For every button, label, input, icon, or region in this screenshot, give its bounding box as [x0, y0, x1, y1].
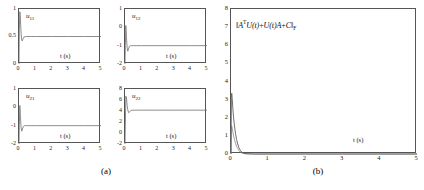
xtick-u11-1: 1 [28, 65, 40, 71]
xaxis-title-resid: t (s) [353, 136, 363, 143]
xaxis-title-u22: t (s) [166, 132, 176, 139]
xtick-u11-2: 2 [45, 65, 57, 71]
ytick-u22-3: 4 [108, 107, 122, 113]
xtick-u12-1: 1 [134, 65, 146, 71]
series-label-u21: u21 [26, 92, 35, 101]
xtick-u21-1: 1 [28, 145, 40, 151]
xtick-resid-5: 5 [410, 155, 422, 162]
xtick-resid-4: 4 [373, 155, 385, 162]
series-label-u12: u12 [132, 12, 141, 21]
subplot-u11: 0 0.5 1 0 1 2 3 4 5 u11 t (s) [0, 0, 106, 80]
xtick-u11-5: 5 [94, 65, 106, 71]
caption-a: (a) [82, 166, 130, 176]
series-label-u22-sub: 22 [136, 96, 141, 101]
xtick-u22-0: 0 [118, 145, 130, 151]
xtick-resid-1: 1 [261, 155, 273, 162]
ytick-u12-2: 0 [108, 23, 122, 29]
series-label-u21-sub: 21 [30, 96, 35, 101]
xtick-u12-4: 4 [184, 65, 196, 71]
xtick-resid-3: 3 [336, 155, 348, 162]
series-label-u22: u22 [132, 92, 141, 101]
norm-frobenius-sub: F [293, 25, 296, 31]
xtick-u22-2: 2 [151, 145, 163, 151]
ytick-resid-5: 5 [214, 59, 228, 66]
subplot-u12: -2 -1 0 1 0 1 2 3 4 5 u12 t (s) [106, 0, 212, 80]
series-label-u11: u11 [26, 12, 34, 21]
series-label-u12-sub: 12 [136, 16, 141, 21]
xtick-u22-3: 3 [167, 145, 179, 151]
xaxis-title-u21: t (s) [60, 132, 70, 139]
ytick-u22-4: 6 [108, 96, 122, 102]
xtick-u22-4: 4 [184, 145, 196, 151]
xtick-resid-0: 0 [224, 155, 236, 162]
xtick-u22-1: 1 [134, 145, 146, 151]
subplot-u22: -2 0 2 4 6 8 0 1 2 3 4 5 u22 t (s) [106, 80, 212, 160]
ytick-u12-1: -1 [108, 42, 122, 48]
ytick-u21-3: 1 [2, 85, 16, 91]
xtick-u21-4: 4 [78, 145, 90, 151]
xtick-u21-5: 5 [94, 145, 106, 151]
xtick-u11-0: 0 [12, 65, 24, 71]
ytick-resid-7: 7 [214, 23, 228, 30]
ytick-u21-2: 0 [2, 103, 16, 109]
xtick-u21-2: 2 [45, 145, 57, 151]
norm-t-2: (t) [269, 21, 276, 30]
xaxis-title-u12: t (s) [166, 52, 176, 59]
xtick-u21-0: 0 [12, 145, 24, 151]
xtick-u12-2: 2 [151, 65, 163, 71]
figure-root: 0 0.5 1 0 1 2 3 4 5 u11 t (s) -2 -1 0 1 … [0, 0, 424, 190]
xtick-u12-0: 0 [118, 65, 130, 71]
ytick-resid-1: 1 [214, 132, 228, 139]
series-label-u11-sub: 11 [30, 16, 35, 21]
subplot-residual-norm: 0 1 2 3 4 5 6 7 8 0 1 2 3 4 5 ‖ATU(t)+U(… [212, 0, 424, 190]
ytick-resid-3: 3 [214, 96, 228, 103]
ytick-resid-2: 2 [214, 114, 228, 121]
ytick-u12-3: 1 [108, 5, 122, 11]
xtick-u21-3: 3 [61, 145, 73, 151]
ytick-resid-6: 6 [214, 41, 228, 48]
ytick-u21-1: -1 [2, 122, 16, 128]
ytick-resid-4: 4 [214, 78, 228, 85]
ytick-u11-2: 1 [2, 5, 16, 11]
xtick-u12-3: 3 [167, 65, 179, 71]
ytick-resid-8: 8 [214, 5, 228, 12]
xtick-u11-3: 3 [61, 65, 73, 71]
xtick-resid-2: 2 [298, 155, 310, 162]
xtick-u12-5: 5 [200, 65, 212, 71]
caption-b: (b) [294, 166, 342, 176]
xaxis-title-u11: t (s) [60, 52, 70, 59]
ytick-u22-1: 0 [108, 129, 122, 135]
subplot-u21: -2 -1 0 1 0 1 2 3 4 5 u21 t (s) [0, 80, 106, 160]
xtick-u22-5: 5 [200, 145, 212, 151]
xtick-u11-4: 4 [78, 65, 90, 71]
ytick-u22-5: 8 [108, 85, 122, 91]
ytick-u11-1: 0.5 [2, 32, 16, 38]
ytick-u22-2: 2 [108, 118, 122, 124]
residual-norm-label: ‖ATU(t)+U(t)A+C‖F [236, 19, 296, 31]
